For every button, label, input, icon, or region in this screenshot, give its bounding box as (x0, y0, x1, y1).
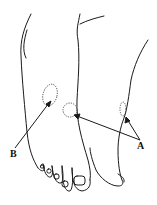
arrow-b-line (15, 103, 49, 148)
left-foot-toes (38, 164, 90, 191)
arrow-a-head-left (74, 114, 80, 119)
left-foot-outer-contour (21, 14, 38, 168)
feet-illustration (0, 0, 157, 205)
point-a-marker-right (120, 102, 126, 116)
back-leg-top (80, 16, 104, 24)
left-foot-inner-contour (77, 14, 91, 180)
toe-1-nail (74, 176, 85, 185)
toe-2-nail (62, 181, 68, 187)
arrow-a-line-left (77, 116, 140, 140)
toe-1 (72, 168, 90, 191)
label-a: A (137, 140, 144, 151)
arrow-a-line-right (127, 119, 140, 140)
toe-3-nail (54, 174, 59, 179)
toe-4-nail (47, 169, 51, 173)
left-foot-ankle-inner-line (24, 30, 27, 58)
label-b: B (10, 148, 17, 159)
right-foot-front-contour (90, 40, 148, 186)
